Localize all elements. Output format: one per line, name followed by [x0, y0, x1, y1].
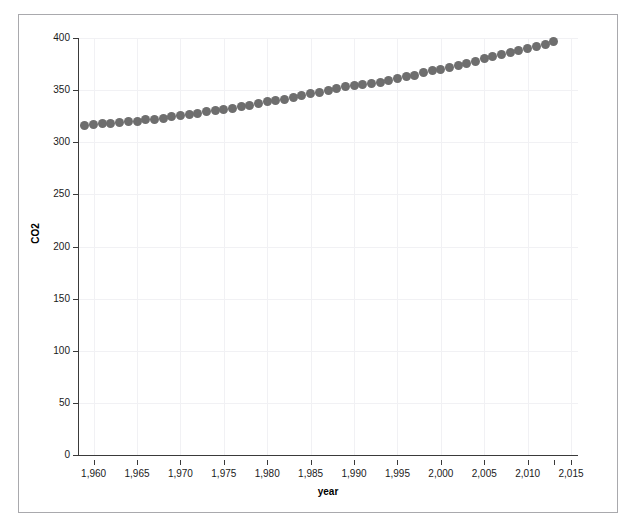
x-axis-tick-mark — [397, 460, 398, 465]
data-point — [159, 114, 168, 123]
y-axis-tick-mark — [73, 142, 78, 143]
data-point — [115, 118, 124, 127]
data-point — [193, 109, 202, 118]
y-axis-tick-mark — [73, 403, 78, 404]
data-point — [124, 117, 133, 126]
gridline-vertical — [311, 38, 312, 455]
y-axis-tick-label-text: 300 — [30, 137, 70, 147]
y-axis-tick-label: 250 — [22, 189, 70, 199]
data-point — [228, 104, 237, 113]
y-axis-tick-label: 350 — [22, 85, 70, 95]
data-point — [133, 117, 142, 126]
data-point — [384, 76, 393, 85]
y-axis-tick-mark — [73, 455, 78, 456]
gridline-vertical — [528, 38, 529, 455]
y-axis-tick-label: 100 — [22, 346, 70, 356]
y-axis-tick-label: 50 — [22, 398, 70, 408]
y-axis-tick-mark — [73, 351, 78, 352]
y-axis-tick-label: 400 — [22, 33, 70, 43]
data-point — [480, 54, 489, 63]
gridline-vertical — [571, 38, 572, 455]
x-axis-tick-mark — [528, 460, 529, 465]
data-point — [402, 72, 411, 81]
data-point — [89, 120, 98, 129]
gridline-vertical — [224, 38, 225, 455]
gridline-horizontal — [78, 247, 578, 248]
data-point — [376, 78, 385, 87]
x-axis-line — [78, 455, 578, 456]
data-point — [367, 79, 376, 88]
data-point — [497, 50, 506, 59]
x-axis-tick-mark — [267, 460, 268, 465]
data-point — [436, 65, 445, 74]
data-point — [549, 37, 558, 46]
y-axis-tick-label-text: 400 — [30, 33, 70, 43]
y-axis-tick-label-text: 250 — [30, 189, 70, 199]
y-axis-tick-label-text: 150 — [30, 294, 70, 304]
gridline-vertical — [180, 38, 181, 455]
data-point — [219, 105, 228, 114]
data-point — [185, 110, 194, 119]
x-axis-tick-mark — [571, 460, 572, 465]
data-point — [324, 86, 333, 95]
y-axis-tick-label: 0 — [22, 450, 70, 460]
y-axis-tick-mark — [73, 299, 78, 300]
gridline-vertical — [397, 38, 398, 455]
data-point — [280, 95, 289, 104]
data-point — [202, 107, 211, 116]
x-axis-tick-label: 2,015 — [541, 468, 601, 479]
y-axis-tick-label: 200 — [22, 242, 70, 252]
x-axis-tick-mark — [311, 460, 312, 465]
data-point — [297, 91, 306, 100]
data-point — [80, 121, 89, 130]
data-point — [523, 44, 532, 53]
x-axis-tick-mark — [224, 460, 225, 465]
chart-figure: CO2 year 0501001502002503003504001,9601,… — [0, 0, 638, 532]
x-axis-tick-mark — [484, 460, 485, 465]
y-axis-tick-mark — [73, 38, 78, 39]
data-point — [419, 68, 428, 77]
data-point — [506, 48, 515, 57]
x-axis-tick-mark — [354, 460, 355, 465]
gridline-horizontal — [78, 351, 578, 352]
gridline-horizontal — [78, 194, 578, 195]
gridline-horizontal — [78, 38, 578, 39]
data-point — [254, 99, 263, 108]
data-point — [263, 97, 272, 106]
data-point — [462, 59, 471, 68]
y-axis-tick-label-text: 100 — [30, 346, 70, 356]
y-axis-tick-mark — [73, 247, 78, 248]
data-point — [393, 74, 402, 83]
data-point — [454, 61, 463, 70]
x-axis-tick-mark — [554, 460, 555, 465]
y-axis-tick-label-text: 0 — [30, 450, 70, 460]
data-point — [289, 93, 298, 102]
data-point — [141, 115, 150, 124]
data-point — [245, 101, 254, 110]
x-axis-tick-mark — [180, 460, 181, 465]
y-axis-tick-mark — [73, 194, 78, 195]
data-point — [541, 40, 550, 49]
data-point — [167, 112, 176, 121]
data-point — [106, 119, 115, 128]
y-axis-line — [78, 38, 79, 456]
data-point — [211, 106, 220, 115]
y-axis-tick-label-text: 350 — [30, 85, 70, 95]
gridline-horizontal — [78, 403, 578, 404]
gridline-vertical — [354, 38, 355, 455]
data-point — [532, 42, 541, 51]
data-point — [471, 57, 480, 66]
y-axis-tick-label-text: 50 — [30, 398, 70, 408]
y-axis-tick-label: 300 — [22, 137, 70, 147]
gridline-vertical — [94, 38, 95, 455]
data-point — [306, 89, 315, 98]
data-point — [332, 84, 341, 93]
data-point — [358, 80, 367, 89]
x-axis-tick-mark — [441, 460, 442, 465]
gridline-horizontal — [78, 142, 578, 143]
gridline-vertical — [137, 38, 138, 455]
x-axis-tick-mark — [137, 460, 138, 465]
data-point — [98, 119, 107, 128]
data-point — [150, 115, 159, 124]
y-axis-tick-label-text: 200 — [30, 242, 70, 252]
